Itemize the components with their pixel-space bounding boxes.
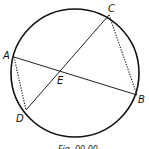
point-label-d: D bbox=[16, 113, 24, 124]
dotted-segment-cb bbox=[109, 15, 137, 95]
chord-diagram: A B C D E Fig. 00.00 bbox=[0, 0, 149, 149]
point-label-a: A bbox=[2, 50, 10, 61]
dotted-segment-ad bbox=[14, 57, 26, 110]
point-label-c: C bbox=[108, 3, 115, 14]
chord-cd bbox=[26, 15, 109, 110]
circle bbox=[11, 9, 139, 137]
chord-ab bbox=[14, 57, 137, 95]
figure-caption: Fig. 00.00 bbox=[58, 145, 98, 149]
point-label-e: E bbox=[57, 75, 64, 86]
point-label-b: B bbox=[138, 94, 145, 105]
